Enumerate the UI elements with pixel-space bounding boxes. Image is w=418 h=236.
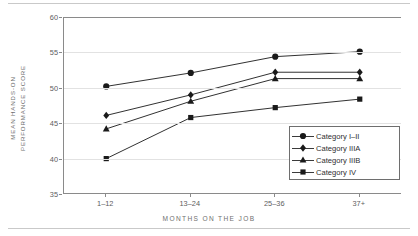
chart-legend: Category I–IICategory IIIACategory IIIBC… (289, 126, 400, 180)
data-point-3-3 (357, 97, 362, 102)
y-tick-mark-45 (59, 123, 62, 124)
x-tick-label-2: 25–36 (244, 199, 304, 208)
data-point-0-2 (272, 54, 278, 60)
data-point-1-2 (272, 69, 278, 76)
legend-item-1[interactable]: Category IIIA (290, 142, 399, 154)
legend-label-3: Category IV (316, 168, 356, 177)
gridline-45 (64, 123, 401, 124)
y-tick-label-55: 55 (24, 48, 58, 57)
y-axis-title-line1: MEAN HANDS-ON (8, 65, 18, 151)
y-tick-mark-40 (59, 159, 62, 160)
y-tick-mark-60 (59, 17, 62, 18)
data-point-2-3 (356, 75, 363, 81)
y-tick-label-60: 60 (24, 13, 58, 22)
y-tick-mark-50 (59, 88, 62, 89)
y-tick-label-50: 50 (24, 83, 58, 92)
y-axis-title-line2: PERFORMANCE SCORE (17, 65, 27, 151)
x-tick-mark-3 (359, 194, 360, 197)
legend-label-1: Category IIIA (316, 144, 360, 153)
x-tick-mark-0 (105, 194, 106, 197)
legend-label-0: Category I–II (316, 132, 359, 141)
series-line-0 (106, 52, 360, 87)
legend-marker-diamond-icon (290, 142, 316, 154)
legend-item-2[interactable]: Category IIIB (290, 154, 399, 166)
data-point-3-1 (188, 115, 193, 120)
x-axis-title: MONTHS ON THE JOB (0, 215, 418, 222)
chart-figure: MEAN HANDS-ON PERFORMANCE SCORE 35404550… (0, 0, 418, 236)
y-tick-mark-35 (59, 194, 62, 195)
gridline-50 (64, 88, 401, 89)
bottom-divider (8, 228, 410, 229)
data-point-1-1 (188, 91, 194, 98)
series-line-2 (106, 79, 360, 129)
data-point-2-2 (272, 75, 279, 81)
legend-marker-square-icon (290, 166, 316, 178)
data-point-1-0 (103, 112, 109, 119)
y-tick-label-35: 35 (24, 190, 58, 199)
x-tick-label-0: 1–12 (75, 199, 135, 208)
legend-marker-triangle-icon (290, 154, 316, 166)
legend-item-3[interactable]: Category IV (290, 166, 399, 178)
y-tick-label-45: 45 (24, 119, 58, 128)
legend-label-2: Category IIIB (316, 156, 360, 165)
top-divider (8, 3, 410, 4)
legend-marker-circle-icon (290, 130, 316, 142)
data-point-0-1 (188, 70, 194, 76)
x-tick-label-1: 13–24 (160, 199, 220, 208)
gridline-60 (64, 17, 401, 18)
gridline-55 (64, 52, 401, 53)
legend-item-0[interactable]: Category I–II (290, 130, 399, 142)
x-tick-mark-1 (190, 194, 191, 197)
x-tick-mark-2 (274, 194, 275, 197)
y-tick-mark-55 (59, 52, 62, 53)
series-1 (103, 69, 362, 120)
x-tick-label-3: 37+ (329, 199, 389, 208)
data-point-3-2 (273, 105, 278, 110)
data-point-1-3 (357, 69, 363, 76)
y-tick-label-40: 40 (24, 154, 58, 163)
